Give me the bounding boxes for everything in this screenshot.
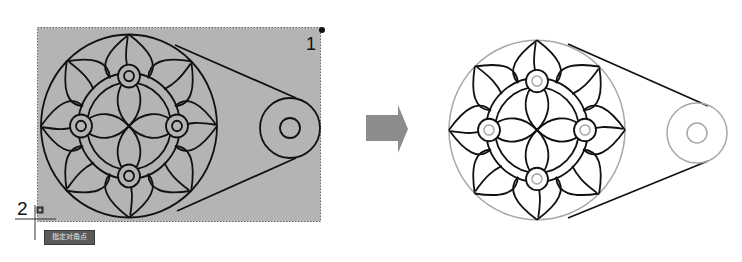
lug-right [166, 115, 188, 138]
lug-left [70, 115, 92, 138]
flange-drawing-right [449, 40, 625, 220]
corner-1-grip[interactable] [319, 27, 325, 33]
cad-illustration [0, 0, 742, 262]
lug-top [118, 65, 140, 88]
command-tooltip: 指定对角点 [44, 230, 95, 245]
left-panel [15, 27, 325, 240]
corner-2-label: 2 [17, 199, 28, 218]
right-panel [449, 40, 727, 220]
lug-right [574, 119, 596, 141]
small-pulley-outer-highlighted [667, 103, 727, 163]
lug-bottom [526, 168, 548, 190]
small-pulley-inner-highlighted [687, 123, 707, 143]
lug-bottom [118, 164, 140, 187]
belt-upper [568, 44, 708, 106]
lug-left [478, 119, 500, 141]
belt-lower [568, 161, 708, 218]
lug-top [526, 70, 548, 92]
corner-1-label: 1 [306, 35, 316, 53]
right-arrow-icon [366, 105, 408, 153]
